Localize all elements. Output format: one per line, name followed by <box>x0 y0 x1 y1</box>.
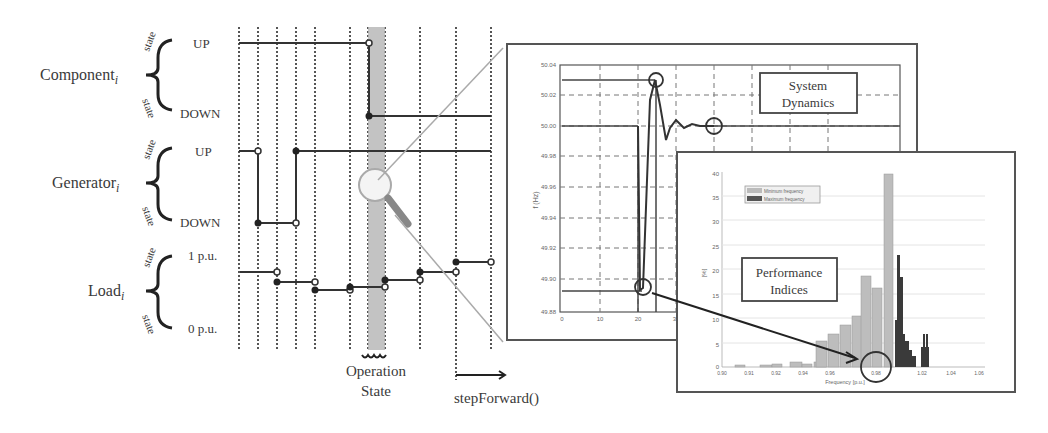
svg-text:0.92: 0.92 <box>771 370 781 376</box>
svg-text:49.98: 49.98 <box>541 153 557 159</box>
time-gridlines <box>239 27 491 380</box>
svg-text:10: 10 <box>597 316 604 322</box>
svg-text:state: state <box>140 246 158 269</box>
svg-text:Frequency [p.u.]: Frequency [p.u.] <box>825 379 865 385</box>
svg-text:49.92: 49.92 <box>541 245 557 251</box>
svg-text:10: 10 <box>712 317 719 323</box>
left-labels: Componenti Generatori Loadi state state … <box>40 30 221 336</box>
svg-text:DOWN: DOWN <box>180 215 221 230</box>
svg-text:f (Hz): f (Hz) <box>532 191 540 208</box>
operation-label: Operation <box>346 363 406 379</box>
svg-text:0 p.u.: 0 p.u. <box>188 321 217 336</box>
svg-text:0.91: 0.91 <box>744 370 754 376</box>
svg-text:50.02: 50.02 <box>541 92 557 98</box>
svg-text:0.98: 0.98 <box>871 370 881 376</box>
svg-text:49.90: 49.90 <box>541 276 557 282</box>
svg-text:1.02: 1.02 <box>917 370 927 376</box>
svg-text:49.96: 49.96 <box>541 184 557 190</box>
svg-text:state: state <box>140 97 158 120</box>
svg-text:50.04: 50.04 <box>541 62 557 68</box>
component-label: Componenti <box>40 66 118 87</box>
svg-text:20: 20 <box>712 268 719 274</box>
svg-text:[%]: [%] <box>701 268 707 277</box>
svg-text:49.94: 49.94 <box>541 215 557 221</box>
system-dynamics-title-1: System <box>789 78 827 93</box>
simulation-diagram: Componenti Generatori Loadi state state … <box>0 0 1048 433</box>
svg-text:25: 25 <box>712 244 719 250</box>
state-label: State <box>361 383 391 399</box>
svg-text:state: state <box>140 138 158 161</box>
zoom-projection-lines <box>378 48 503 342</box>
system-dynamics-title-2: Dynamics <box>782 95 835 110</box>
generator-label: Generatori <box>52 174 119 195</box>
svg-text:35: 35 <box>712 195 719 201</box>
operation-brace-icon <box>362 355 386 358</box>
svg-text:49.88: 49.88 <box>541 309 557 315</box>
svg-text:state: state <box>140 313 158 336</box>
performance-indices-title-1: Performance <box>756 265 823 280</box>
performance-indices-title-2: Indices <box>770 282 808 297</box>
brace-icons <box>146 40 172 328</box>
svg-text:Minimum frequency: Minimum frequency <box>764 189 804 194</box>
svg-text:1 p.u.: 1 p.u. <box>188 248 217 263</box>
svg-text:40: 40 <box>712 171 719 177</box>
svg-text:30: 30 <box>712 219 719 225</box>
load-label: Loadi <box>88 282 124 303</box>
svg-text:Maximum frequency: Maximum frequency <box>764 197 805 202</box>
svg-text:20: 20 <box>635 316 642 322</box>
svg-text:state: state <box>140 30 158 53</box>
svg-text:UP: UP <box>195 144 212 159</box>
svg-text:50.00: 50.00 <box>541 123 557 129</box>
svg-text:1.06: 1.06 <box>974 370 984 376</box>
svg-text:0.96: 0.96 <box>825 370 835 376</box>
svg-text:0.94: 0.94 <box>798 370 808 376</box>
svg-text:0.90: 0.90 <box>717 370 727 376</box>
svg-text:15: 15 <box>712 293 719 299</box>
svg-text:state: state <box>140 205 158 228</box>
svg-text:DOWN: DOWN <box>180 106 221 121</box>
step-forward-label: stepForward() <box>454 390 539 407</box>
step-forward-arrow-icon <box>456 371 505 379</box>
svg-text:UP: UP <box>193 36 210 51</box>
svg-text:1.04: 1.04 <box>946 370 956 376</box>
